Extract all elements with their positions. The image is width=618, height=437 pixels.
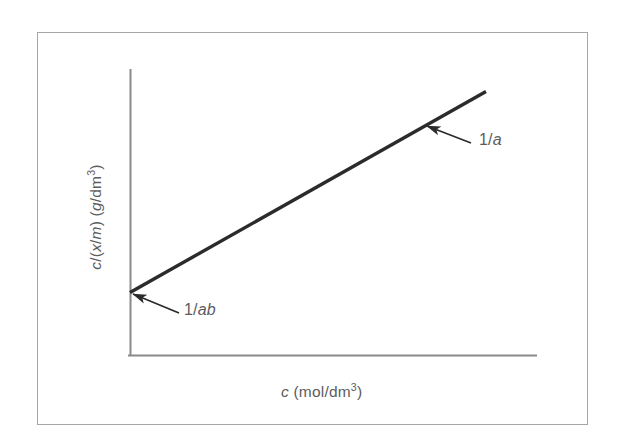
- intercept-annotation-prefix: 1/: [184, 301, 198, 318]
- x-axis-label-c: c: [281, 383, 289, 400]
- y-axis-label-units: /dm: [87, 176, 104, 202]
- slope-annotation-prefix: 1/: [479, 131, 493, 148]
- y-axis-label-slash: /: [87, 239, 104, 244]
- figure-root: c/(x/m) (g/dm3) c (mol/dm3) 1/a 1/ab: [0, 0, 618, 437]
- y-axis-label-g: g: [87, 202, 104, 211]
- intercept-annotation-arrow: [133, 294, 179, 313]
- data-line-series-1: [130, 92, 486, 293]
- slope-annotation-label: 1/a: [479, 131, 502, 149]
- x-axis-label-units: (mol/dm: [289, 383, 351, 400]
- y-axis-label-exponent: 3: [85, 170, 97, 176]
- intercept-annotation-symbol: ab: [198, 301, 216, 318]
- y-axis-label-m: m: [87, 226, 104, 239]
- y-axis-label-close: ): [87, 164, 104, 169]
- slope-annotation-arrow: [427, 126, 471, 143]
- y-axis-label-mid: /(: [87, 252, 104, 262]
- x-axis-label: c (mol/dm3): [281, 381, 362, 401]
- y-axis-label: c/(x/m) (g/dm3): [85, 164, 105, 269]
- y-axis-label-c: c: [87, 262, 104, 270]
- y-axis-label-after: ) (: [87, 211, 104, 226]
- slope-annotation-symbol: a: [493, 131, 502, 148]
- intercept-annotation-label: 1/ab: [184, 301, 216, 319]
- y-axis-label-x: x: [87, 244, 104, 252]
- x-axis-label-close: ): [357, 383, 362, 400]
